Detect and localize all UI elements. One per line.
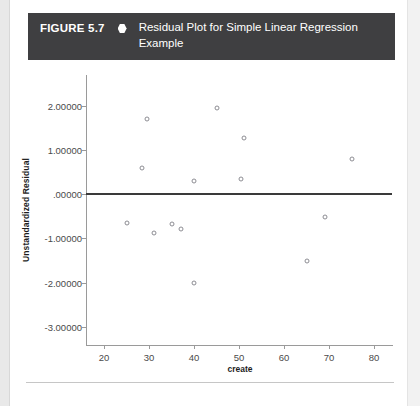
scatter-data-point bbox=[169, 222, 174, 227]
y-axis-tick-label: -2.00000 bbox=[44, 277, 82, 288]
scatter-data-point bbox=[144, 116, 149, 121]
y-axis-line bbox=[86, 75, 87, 346]
y-axis-tick-mark bbox=[82, 238, 86, 239]
scatter-data-point bbox=[322, 215, 327, 220]
scatter-data-point bbox=[304, 258, 309, 263]
x-axis-tick-mark bbox=[104, 345, 105, 349]
y-axis-tick-label: 1.00000 bbox=[48, 144, 82, 155]
y-axis-tick-mark bbox=[82, 106, 86, 107]
figure-caption-text: Residual Plot for Simple Linear Regressi… bbox=[139, 20, 383, 51]
hexagon-bullet-icon bbox=[118, 24, 127, 33]
scatter-data-point bbox=[192, 178, 197, 183]
residual-scatter-chart: 2.000001.00000.00000-1.00000-2.00000-3.0… bbox=[0, 60, 420, 360]
x-axis-tick-mark bbox=[374, 345, 375, 349]
y-axis-tick-labels: 2.000001.00000.00000-1.00000-2.00000-3.0… bbox=[0, 60, 82, 360]
y-axis-tick-mark bbox=[82, 150, 86, 151]
x-axis-tick-label: 60 bbox=[279, 352, 290, 363]
scatter-data-point bbox=[124, 220, 129, 225]
y-axis-tick-label: -3.00000 bbox=[44, 322, 82, 333]
x-axis-tick-label: 20 bbox=[99, 352, 110, 363]
scatter-data-point bbox=[140, 165, 145, 170]
y-axis-tick-mark bbox=[82, 327, 86, 328]
page-footer-rule bbox=[26, 382, 394, 383]
scatter-data-point bbox=[178, 226, 183, 231]
x-axis-title: create bbox=[227, 364, 252, 374]
x-axis-tick-mark bbox=[239, 345, 240, 349]
x-axis-tick-mark bbox=[329, 345, 330, 349]
figure-caption-banner: FIGURE 5.7 Residual Plot for Simple Line… bbox=[28, 13, 395, 60]
x-axis-tick-mark bbox=[194, 345, 195, 349]
x-axis-tick-label: 50 bbox=[234, 352, 245, 363]
x-axis-tick-label: 30 bbox=[144, 352, 155, 363]
y-axis-tick-mark bbox=[82, 283, 86, 284]
y-axis-tick-label: -1.00000 bbox=[44, 233, 82, 244]
x-axis-tick-mark bbox=[284, 345, 285, 349]
scatter-data-point bbox=[239, 176, 244, 181]
x-axis-tick-label: 80 bbox=[369, 352, 380, 363]
x-axis-tick-label: 70 bbox=[324, 352, 335, 363]
x-axis-tick-label: 40 bbox=[189, 352, 200, 363]
scatter-data-point bbox=[349, 156, 354, 161]
figure-number: FIGURE 5.7 bbox=[40, 20, 105, 36]
zero-reference-line bbox=[86, 193, 392, 195]
scatter-data-point bbox=[241, 135, 246, 140]
y-axis-tick-label: 2.00000 bbox=[48, 100, 82, 111]
y-axis-title: Unstandardized Residual bbox=[21, 158, 31, 262]
x-axis-tick-mark bbox=[149, 345, 150, 349]
y-axis-tick-label: .00000 bbox=[53, 189, 82, 200]
scatter-data-point bbox=[214, 105, 219, 110]
scatter-data-point bbox=[192, 281, 197, 286]
scatter-data-point bbox=[151, 230, 156, 235]
